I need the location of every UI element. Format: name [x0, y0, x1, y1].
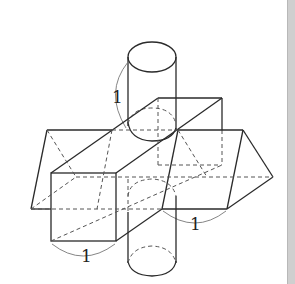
tri-right-upper-edge: [243, 130, 273, 177]
square-bottom-right-edge: [116, 209, 162, 241]
square-side-label: 1: [81, 246, 92, 266]
tri-left-front-edge: [31, 130, 47, 209]
tri-left-hidden-2: [31, 177, 76, 209]
cylinder-hidden-arc: [128, 108, 176, 124]
geometry-diagram: 1 1: [0, 0, 295, 284]
square-front-face: [51, 173, 116, 241]
tri-hidden-mid: [178, 130, 207, 177]
bottom-cylinder-hidden-base-arc: [128, 246, 176, 263]
page-edge-border: [287, 0, 295, 284]
tri-left-hidden-1: [47, 130, 76, 177]
tri-right-lower-edge: [227, 177, 273, 209]
triangular-prism: 1: [31, 130, 273, 234]
cylinder-height-label: 1: [112, 87, 123, 107]
tri-right-front-edge: [227, 130, 243, 209]
bottom-cylinder-hidden-top-arc: [128, 179, 176, 196]
square-top-right-edge: [116, 98, 222, 173]
square-prism: 1: [51, 98, 222, 266]
cylinder-top-ellipse: [128, 42, 176, 72]
cylinder-lower-arc: [128, 122, 176, 141]
tri-hidden-left-mid: [97, 130, 112, 209]
triangle-side-label: 1: [190, 214, 201, 234]
bottom-cylinder-base-arc: [128, 261, 176, 276]
top-cylinder: 1: [112, 42, 176, 141]
